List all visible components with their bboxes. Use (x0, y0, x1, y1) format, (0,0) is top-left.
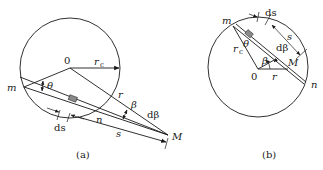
label-M-b: M (287, 57, 299, 68)
s-tick-a (165, 138, 168, 149)
caption-b: (b) (262, 149, 276, 160)
label-ds-a: ds (54, 122, 66, 133)
label-beta-b: β (261, 55, 268, 66)
label-rc-sub-b: c (239, 48, 243, 56)
label-dbeta-b: dβ (276, 42, 288, 53)
label-r-a: r (118, 89, 124, 100)
label-theta-a: θ (47, 80, 53, 91)
volume-element-a (68, 95, 77, 102)
panel-b: m ds s θ r c dβ β M 0 r n (b) (208, 7, 317, 160)
panel-a: 0 r c m θ r β dβ n ds s M (a) (7, 18, 183, 160)
label-m-a: m (7, 82, 16, 93)
label-center-b: 0 (251, 71, 257, 82)
label-ds-b: ds (265, 7, 277, 18)
label-n-a: n (96, 114, 102, 125)
label-theta-b: θ (243, 38, 249, 49)
ds-arrow-left-a (47, 108, 59, 112)
ds-arrow-right-a (71, 115, 84, 119)
label-s-b: s (287, 31, 292, 42)
figure-canvas: 0 r c m θ r β dβ n ds s M (a) (0, 0, 323, 170)
label-m-b: m (222, 15, 231, 26)
label-n-b: n (311, 79, 317, 90)
label-center-a: 0 (64, 55, 70, 66)
label-M-a: M (171, 131, 183, 142)
dbeta-arrow-a (123, 110, 127, 119)
caption-a: (a) (76, 149, 90, 160)
label-s-a: s (116, 128, 121, 139)
label-beta-a: β (130, 99, 137, 110)
label-dbeta-a: dβ (147, 109, 159, 120)
ray-lower-b (233, 26, 304, 84)
theta-arrow-a (42, 81, 43, 91)
label-rc-sub-a: c (100, 61, 104, 69)
label-r-b: r (272, 71, 278, 82)
ds-arrow-left-b (249, 14, 257, 17)
